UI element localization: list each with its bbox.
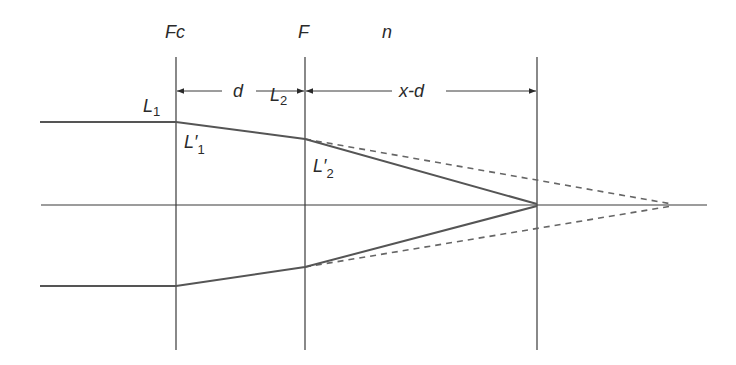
label-l2: L2 — [270, 85, 287, 108]
top-dashed-ray — [305, 139, 672, 204]
bottom-ray — [40, 206, 537, 286]
label-l1: L1 — [143, 96, 160, 119]
label-fc: Fc — [165, 22, 185, 42]
label-l1-prime: L′1 — [184, 132, 205, 157]
label-x-minus-d: x-d — [398, 81, 425, 101]
label-f: F — [298, 22, 310, 42]
lens-diagram: Fc F n d x-d L1 L2 L′1 L′2 — [0, 0, 736, 365]
bottom-dashed-ray — [305, 206, 672, 267]
label-d: d — [233, 81, 244, 101]
label-l2-prime: L′2 — [313, 156, 334, 181]
top-ray — [40, 122, 537, 204]
label-n: n — [382, 22, 392, 42]
